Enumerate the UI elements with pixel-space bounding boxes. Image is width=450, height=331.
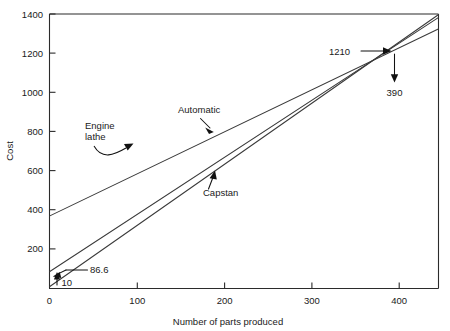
x-tick-label-0: 0 (47, 295, 52, 306)
arrowhead-engine-lathe-icon (124, 144, 134, 151)
y-tick-label-1200: 1200 (22, 48, 43, 59)
leader-curve-engine-lathe (94, 146, 126, 155)
series-line-capstan (50, 18, 439, 272)
chart-container: 1400 1200 1000 800 600 400 200 0 100 200… (0, 0, 450, 331)
y-tick-label-800: 800 (27, 126, 43, 137)
cost-vs-parts-line-chart: 1400 1200 1000 800 600 400 200 0 100 200… (0, 0, 450, 331)
series-label-engine-lathe-line1: Engine (85, 120, 115, 131)
series-label-automatic: Automatic (178, 104, 220, 134)
annotation-390: 390 (387, 54, 403, 98)
y-tick-label-400: 400 (27, 204, 43, 215)
series-label-automatic-text: Automatic (178, 104, 220, 115)
x-tick-label-100: 100 (129, 295, 145, 306)
y-tick-label-1400: 1400 (22, 9, 43, 20)
arrowhead-automatic-icon (205, 128, 214, 134)
series-lines (50, 15, 439, 287)
series-label-capstan: Capstan (203, 171, 238, 199)
series-label-engine-lathe: Engine lathe (85, 120, 134, 155)
x-tick-label-400: 400 (391, 295, 407, 306)
y-tick-label-200: 200 (27, 243, 43, 254)
x-tick-labels: 0 100 200 300 400 (47, 295, 407, 306)
annotation-label-1210: 1210 (329, 46, 350, 57)
x-tick-label-200: 200 (217, 295, 233, 306)
y-tick-labels: 1400 1200 1000 800 600 400 200 (22, 9, 43, 255)
series-label-engine-lathe-line2: lathe (85, 131, 106, 142)
arrowhead-down-icon (391, 74, 398, 82)
annotation-label-390: 390 (387, 87, 403, 98)
y-tick-label-600: 600 (27, 165, 43, 176)
x-axis-ticks (137, 283, 399, 289)
y-tick-label-1000: 1000 (22, 87, 43, 98)
y-axis-title: Cost (4, 141, 15, 161)
x-tick-label-300: 300 (304, 295, 320, 306)
annotation-label-10: 10 (62, 277, 73, 288)
x-axis-title: Number of parts produced (173, 316, 283, 327)
annotation-label-86-6: 86.6 (90, 264, 109, 275)
